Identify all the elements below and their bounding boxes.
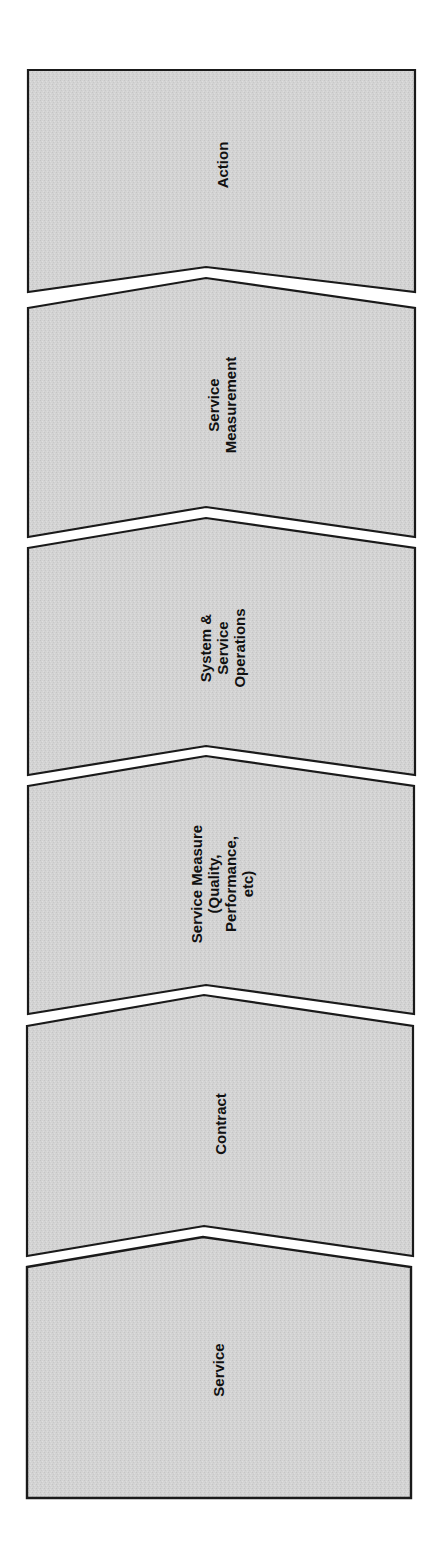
- step-label-action: Action: [214, 142, 231, 189]
- label-line: Measurement: [222, 357, 239, 454]
- label-line: Service: [210, 1343, 227, 1396]
- label-line: Service Measure: [188, 825, 205, 943]
- step-label-service-measurement: Service Measurement: [205, 357, 239, 454]
- step-label-service: Service: [210, 1343, 227, 1396]
- label-line: System &: [197, 608, 214, 687]
- label-line: Performance,: [222, 825, 239, 943]
- label-line: Contract: [212, 1093, 229, 1155]
- label-line: Operations: [231, 608, 248, 687]
- label-line: (Quality,: [205, 825, 222, 943]
- step-label-service-measure: Service Measure (Quality, Performance, e…: [188, 825, 256, 943]
- step-label-system-service-operations: System & Service Operations: [197, 608, 248, 687]
- label-line: Service: [214, 608, 231, 687]
- label-line: Action: [214, 142, 231, 189]
- step-label-contract: Contract: [212, 1093, 229, 1155]
- label-line: etc): [239, 825, 256, 943]
- chevron-diagram: [0, 0, 444, 1562]
- label-line: Service: [205, 357, 222, 454]
